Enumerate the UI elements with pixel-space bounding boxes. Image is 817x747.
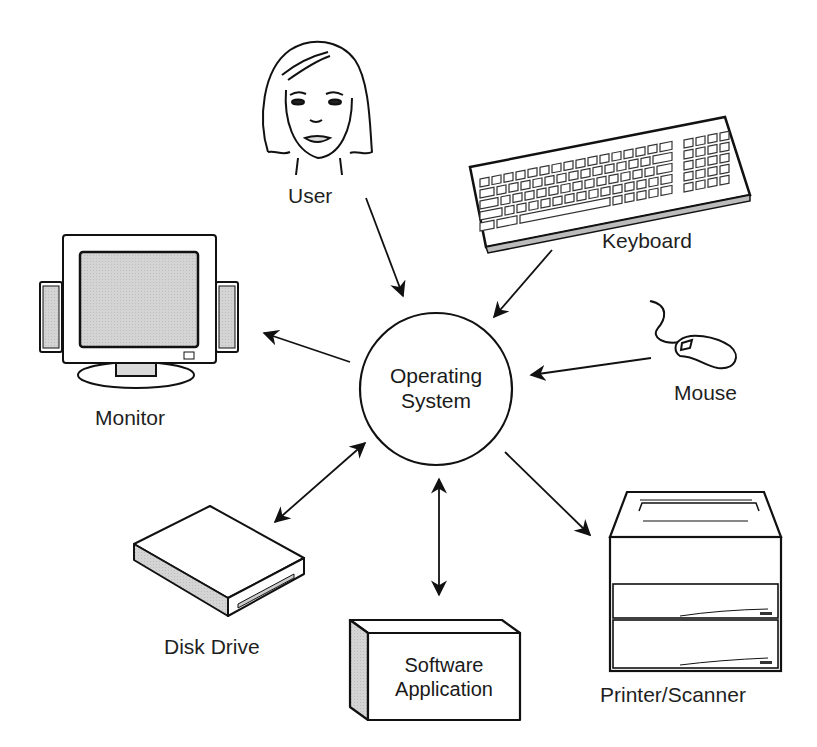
software-label-line2: Application — [374, 677, 514, 701]
mouse-label: Mouse — [674, 382, 737, 403]
mouse-icon — [650, 301, 736, 368]
printer-scanner-label: Printer/Scanner — [600, 684, 746, 705]
operating-system-label: Operating System — [366, 364, 506, 414]
monitor-label: Monitor — [95, 407, 165, 428]
arrow-os-to-monitor — [264, 333, 350, 362]
arrow-keyboard-to-os — [494, 250, 552, 317]
software-label-line1: Software — [374, 653, 514, 677]
arrow-os-to-printer — [505, 452, 590, 535]
arrow-mouse-to-os — [531, 358, 651, 375]
person-face-icon — [263, 42, 372, 175]
arrow-user-to-os — [366, 198, 403, 296]
monitor-icon — [40, 235, 238, 388]
disk-drive-label: Disk Drive — [164, 636, 260, 657]
software-application-label: Software Application — [374, 653, 514, 701]
disk-drive-icon — [134, 506, 304, 616]
printer-icon — [610, 492, 781, 671]
os-label-line2: System — [366, 389, 506, 414]
user-label: User — [288, 185, 332, 206]
arrow-os-disk-bidirectional — [275, 443, 365, 522]
keyboard-label: Keyboard — [602, 230, 692, 251]
os-label-line1: Operating — [366, 364, 506, 389]
